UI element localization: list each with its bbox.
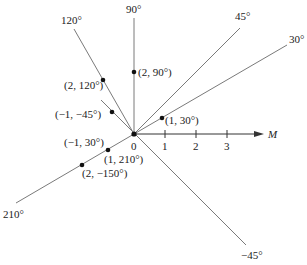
ray-label-45: 45°	[235, 10, 250, 22]
point-1-210	[106, 148, 111, 153]
axis-label-m: M	[267, 128, 278, 140]
ray-label-210: 210°	[3, 208, 24, 220]
tick-label-3: 3	[224, 140, 230, 152]
ray-label-minus45: −45°	[241, 249, 263, 261]
point-label-minus1-minus45: (−1, −45°)	[55, 108, 101, 121]
point-label-2-120: (2, 120°)	[64, 79, 104, 92]
ray-label-120: 120°	[61, 14, 82, 26]
point-label-2-90: (2, 90°)	[138, 66, 172, 79]
point-minus1-minus45	[110, 110, 115, 115]
point-label-1-30: (1, 30°)	[165, 114, 199, 127]
ray-label-90: 90°	[126, 3, 141, 15]
point-label-2-minus150: (2, −150°)	[82, 167, 128, 180]
origin-dot	[131, 131, 136, 136]
ray-label-30: 30°	[289, 33, 304, 45]
m-axis: 1 2 3 M 0	[131, 128, 278, 152]
tick-label-2: 2	[193, 140, 199, 152]
origin-label: 0	[131, 140, 137, 152]
tick-label-1: 1	[162, 140, 168, 152]
ray-30	[134, 45, 287, 134]
point-label-1-210: (1, 210°)	[104, 153, 144, 166]
polar-diagram: 1 2 3 M 0 90° 120° 45° 30° 210° −45° (2,…	[0, 0, 307, 265]
point-1-30	[160, 116, 165, 121]
point-label-minus1-30: (−1, 30°)	[64, 136, 104, 149]
arrow-head-icon	[254, 131, 264, 137]
point-2-90	[132, 70, 137, 75]
